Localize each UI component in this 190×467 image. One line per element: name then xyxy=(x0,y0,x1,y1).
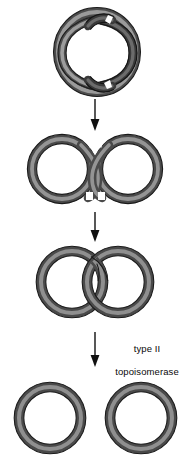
topoisomerase-figure xyxy=(0,0,190,467)
figure-eight-gap-bottom-left xyxy=(86,192,93,200)
enzyme-label-line-1: type II xyxy=(104,343,190,355)
enzyme-label: type II topoisomerase xyxy=(104,331,190,389)
figure-eight-gap-bottom-right xyxy=(98,192,105,200)
figure-canvas xyxy=(0,0,190,467)
enzyme-label-line-2: topoisomerase xyxy=(104,366,190,378)
